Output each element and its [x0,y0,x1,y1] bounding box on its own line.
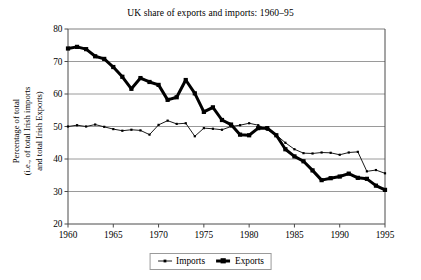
data-point [212,128,214,130]
x-tick-label-1995: 1995 [376,230,395,240]
series-exports [66,45,387,192]
data-point [274,133,278,137]
data-point [256,126,260,130]
x-tick-labels: 19601965197019751980198519901995 [59,230,395,240]
data-point [301,159,305,163]
data-point [374,184,378,188]
legend-label-exports: Exports [235,255,264,267]
x-tick-label-1985: 1985 [285,230,304,240]
data-point [194,135,196,137]
data-point [175,95,179,99]
data-point [238,133,242,137]
gridlines [68,29,385,192]
data-point [383,188,387,192]
data-point [203,127,205,129]
x-tick-label-1965: 1965 [104,230,123,240]
data-point [339,154,341,156]
data-point [157,124,159,126]
y-tick-label-80: 80 [53,24,63,34]
data-point [112,128,114,130]
x-tick-label-1960: 1960 [59,230,78,240]
data-point [211,105,215,109]
data-point [357,151,359,153]
data-point [220,118,224,122]
y-tick-label-70: 70 [53,57,63,67]
data-point [76,124,78,126]
data-point [347,172,351,176]
data-point [284,142,286,144]
data-point [310,168,314,172]
data-point [366,170,368,172]
data-point [338,174,342,178]
data-point [221,129,223,131]
y-tick-labels: 80706050403020 [53,24,63,229]
data-point [247,133,251,137]
data-point [102,57,106,61]
data-point [166,98,170,102]
data-point [329,176,333,180]
y-tick-label-50: 50 [53,122,63,132]
data-point [156,83,160,87]
series-imports [67,120,386,175]
y-tick-label-30: 30 [53,187,63,197]
data-point [66,46,70,50]
data-point [348,151,350,153]
x-tick-label-1980: 1980 [240,230,259,240]
chart-figure: UK share of exports and imports: 1960–95… [0,0,421,280]
data-point [176,123,178,125]
data-point [184,78,188,82]
x-tick-label-1975: 1975 [195,230,214,240]
data-point [147,80,151,84]
data-point [130,129,132,131]
data-point [302,152,304,154]
data-series-layer [66,45,387,192]
data-point [167,120,169,122]
data-point [248,122,250,124]
legend-imports-swatch-icon [157,257,172,265]
data-point [375,169,377,171]
data-point [320,178,324,182]
x-tick-label-1990: 1990 [330,230,349,240]
data-point [356,176,360,180]
y-tick-label-40: 40 [53,154,63,164]
plot-area: 80706050403020 1960196519701975198019851… [0,0,421,280]
series-line-exports [68,47,385,190]
chart-legend: Imports Exports [149,253,272,270]
data-point [311,152,313,154]
series-line-imports [68,121,385,174]
data-point [103,126,105,128]
data-point [67,125,69,127]
legend-exports-swatch-icon [216,257,231,265]
legend-item-imports[interactable]: Imports [157,255,205,267]
data-point [93,54,97,58]
data-point [239,124,241,126]
legend-label-imports: Imports [176,255,205,267]
data-point [129,87,133,91]
data-point [111,65,115,69]
data-point [148,134,150,136]
data-point [292,154,296,158]
legend-item-exports[interactable]: Exports [216,255,264,267]
data-point [202,110,206,114]
x-tick-label-1970: 1970 [149,230,168,240]
data-point [321,151,323,153]
data-point [265,126,269,130]
data-point [193,91,197,95]
data-point [138,76,142,80]
data-point [257,124,259,126]
data-point [121,130,123,132]
y-tick-label-20: 20 [53,219,63,229]
data-point [283,147,287,151]
data-point [120,75,124,79]
data-point [384,172,386,174]
data-point [85,125,87,127]
data-point [293,148,295,150]
data-point [330,152,332,154]
data-point [75,45,79,49]
data-point [185,122,187,124]
data-point [365,177,369,181]
data-point [84,47,88,51]
y-tick-label-60: 60 [53,89,63,99]
data-point [94,123,96,125]
data-point [229,122,233,126]
